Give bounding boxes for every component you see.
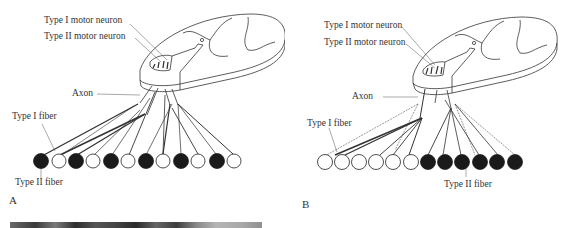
panel-letter-a: A xyxy=(9,194,17,206)
label-type2-fiber: Type II fiber xyxy=(444,180,492,190)
label-type2-fiber: Type II fiber xyxy=(15,178,63,188)
muscle-fibers-b xyxy=(318,155,523,170)
label-type2-motor-neuron: Type II motor neuron xyxy=(324,38,405,48)
label-axon: Axon xyxy=(352,92,373,102)
panel-letter-b: B xyxy=(302,198,309,210)
spinal-cord-section-icon xyxy=(140,14,285,92)
spinal-cord-section-icon xyxy=(413,17,557,95)
panel-a: Type I motor neuron Type II motor neuron… xyxy=(0,0,285,210)
muscle-fibers-a xyxy=(34,154,242,169)
label-axon: Axon xyxy=(72,89,93,99)
label-type1-fiber: Type I fiber xyxy=(307,119,352,129)
axon-bundle xyxy=(140,86,178,115)
motor-unit-diagram-b xyxy=(285,0,571,210)
panel-b: Type I motor neuron Type II motor neuron… xyxy=(285,0,571,210)
micrograph-strip xyxy=(10,222,262,228)
label-type1-fiber: Type I fiber xyxy=(12,112,57,122)
label-type1-motor-neuron: Type I motor neuron xyxy=(324,21,402,31)
label-type1-motor-neuron: Type I motor neuron xyxy=(44,16,122,26)
axon-branches-a xyxy=(42,92,233,156)
label-type2-motor-neuron: Type II motor neuron xyxy=(44,32,125,42)
